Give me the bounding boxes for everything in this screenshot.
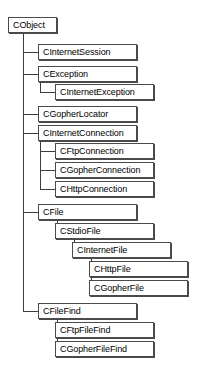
connector-cinternetconnection-to-cgopherconnection: [40, 170, 55, 171]
class-node-cgopherfile[interactable]: CGopherFile: [89, 280, 188, 296]
class-node-cgopherconnection[interactable]: CGopherConnection: [55, 162, 154, 178]
connector-cobject-to-cgopherlocator: [23, 114, 38, 115]
class-node-chttpfile[interactable]: CHttpFile: [89, 261, 188, 277]
connector-cobject-to-cexception: [23, 74, 38, 75]
class-node-cgopherlocator[interactable]: CGopherLocator: [38, 106, 137, 122]
class-node-cinternetexception[interactable]: CInternetException: [55, 84, 154, 100]
class-node-cftpconnection[interactable]: CFtpConnection: [55, 143, 154, 159]
class-node-cinternetfile[interactable]: CInternetFile: [72, 242, 171, 258]
class-node-cexception[interactable]: CException: [38, 66, 137, 82]
class-node-cftpfilefind[interactable]: CFtpFileFind: [55, 322, 154, 338]
class-node-cinternetconnection[interactable]: CInternetConnection: [38, 125, 137, 141]
connector-cexception-to-cinternetexception: [40, 92, 55, 93]
class-node-cinternetsession[interactable]: CInternetSession: [38, 44, 137, 60]
class-hierarchy-diagram: CObject CInternetSession CException CInt…: [0, 0, 199, 375]
connector-trunk-cinternetconnection: [40, 141, 41, 190]
connector-cobject-to-cinternetconnection: [23, 133, 38, 134]
connector-cinternetconnection-to-cftpconnection: [40, 151, 55, 152]
class-node-cobject[interactable]: CObject: [8, 17, 57, 33]
connector-cobject-to-cfilefind: [23, 311, 38, 312]
class-node-cfile[interactable]: CFile: [38, 204, 137, 220]
connector-cinternetconnection-to-chttpconnection: [40, 189, 55, 190]
connector-cobject-to-cinternetsession: [23, 52, 38, 53]
connector-cobject-to-cfile: [23, 212, 38, 213]
class-node-chttpconnection[interactable]: CHttpConnection: [55, 181, 154, 197]
class-node-cstdiofile[interactable]: CStdioFile: [55, 223, 154, 239]
class-node-cgopherfilefind[interactable]: CGopherFileFind: [55, 341, 154, 357]
class-node-cfilefind[interactable]: CFileFind: [38, 303, 137, 319]
